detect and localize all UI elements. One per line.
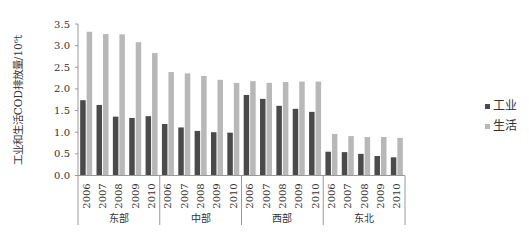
x-tick-label: 2010 [146, 183, 157, 208]
bar-industry [195, 131, 201, 176]
y-tick-label: 0.0 [54, 170, 70, 181]
x-tick-label: 2010 [228, 183, 239, 208]
group-label: 西部 [272, 212, 292, 224]
y-tick-label: 1.5 [54, 105, 70, 116]
bar-industry [162, 124, 168, 176]
x-tick-label: 2007 [261, 183, 272, 208]
y-tick-label: 0.5 [54, 148, 70, 159]
x-tick-label: 2007 [97, 183, 108, 208]
bar-industry [374, 156, 380, 175]
x-tick-label: 2009 [211, 183, 222, 208]
group-label: 东部 [109, 212, 129, 224]
bar-domestic [365, 137, 371, 176]
bar-domestic [185, 73, 191, 175]
x-tick-label: 2009 [130, 183, 141, 208]
x-tick-label: 2006 [162, 183, 173, 208]
y-axis: 0.00.51.01.52.02.53.03.5 [54, 19, 78, 182]
bar-domestic [348, 136, 354, 175]
bar-industry [260, 99, 266, 176]
y-tick-label: 2.5 [54, 62, 70, 73]
bars [80, 32, 403, 176]
y-axis-label: 工业和生活COD排放量/10⁶t [12, 34, 24, 165]
x-tick-label: 2009 [293, 183, 304, 208]
bar-domestic [136, 42, 142, 175]
x-tick-label: 2006 [81, 183, 92, 208]
bar-domestic [234, 83, 240, 176]
bar-domestic [119, 34, 125, 175]
bar-domestic [332, 134, 338, 176]
bar-domestic [381, 137, 387, 176]
bar-industry [309, 112, 315, 176]
x-tick-label: 2010 [310, 183, 321, 208]
bar-industry [97, 105, 103, 176]
bar-industry [129, 118, 135, 176]
bar-domestic [152, 53, 158, 175]
bar-industry [113, 117, 119, 176]
bar-industry [211, 132, 217, 175]
bar-domestic [168, 72, 174, 175]
bar-domestic [87, 32, 93, 176]
x-tick-label: 2007 [342, 183, 353, 208]
bar-industry [293, 109, 299, 176]
bar-industry [227, 133, 233, 176]
legend-swatch [485, 104, 490, 109]
x-tick-label: 2008 [359, 183, 370, 208]
group-label: 中部 [191, 212, 211, 224]
x-tick-label: 2006 [244, 183, 255, 208]
y-tick-label: 1.0 [54, 127, 70, 138]
bar-domestic [103, 34, 109, 176]
bar-domestic [283, 82, 289, 175]
y-axis-title: 工业和生活COD排放量/10⁶t [12, 34, 24, 165]
y-tick-label: 3.0 [54, 40, 70, 51]
x-tick-label: 2009 [375, 183, 386, 208]
bar-industry [342, 152, 348, 175]
bar-industry [391, 157, 397, 175]
bar-domestic [316, 82, 322, 176]
x-axis: 20062007200820092010东部200620072008200920… [78, 176, 405, 226]
legend-label: 生活 [493, 119, 517, 133]
y-tick-label: 2.0 [54, 83, 70, 94]
legend: 工业生活 [485, 99, 517, 133]
bar-industry [80, 100, 86, 175]
bar-industry [276, 106, 282, 176]
x-tick-label: 2006 [326, 183, 337, 208]
legend-label: 工业 [493, 99, 517, 113]
bar-industry [244, 95, 250, 176]
bar-domestic [397, 138, 403, 176]
bar-domestic [267, 83, 273, 176]
bar-industry [146, 116, 152, 175]
legend-swatch [485, 124, 490, 129]
bar-chart: 工业和生活COD排放量/10⁶t 0.00.51.01.52.02.53.03.… [0, 0, 529, 245]
x-tick-label: 2008 [113, 183, 124, 208]
bar-domestic [250, 81, 256, 175]
bar-industry [325, 152, 331, 176]
group-label: 东北 [354, 212, 374, 224]
bar-domestic [299, 82, 305, 176]
x-tick-label: 2008 [277, 183, 288, 208]
x-tick-label: 2008 [195, 183, 206, 208]
x-tick-label: 2010 [391, 183, 402, 208]
bar-domestic [201, 76, 207, 176]
y-tick-label: 3.5 [54, 19, 70, 30]
x-tick-label: 2007 [179, 183, 190, 208]
bar-domestic [217, 80, 223, 176]
bar-industry [358, 154, 364, 176]
bar-industry [178, 127, 184, 175]
